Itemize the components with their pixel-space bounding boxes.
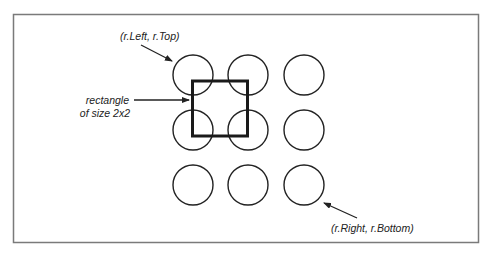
circle-r2c3 [284,110,324,150]
arrow-top-left [141,45,172,61]
circle-r1c3 [284,55,324,95]
label-rectangle: rectangle [86,94,129,106]
circle-r3c2 [228,165,268,205]
label-top-left: (r.Left, r.Top) [120,30,180,42]
diagram-canvas: (r.Left, r.Top) rectangle of size 2x2 (r… [0,0,487,258]
circle-r3c3 [284,165,324,205]
label-bottom-right: (r.Right, r.Bottom) [331,222,414,234]
label-rectangle-size: of size 2x2 [80,107,130,119]
arrow-bottom-right [324,203,357,218]
circle-r3c1 [173,165,213,205]
highlight-rectangle [193,81,248,136]
